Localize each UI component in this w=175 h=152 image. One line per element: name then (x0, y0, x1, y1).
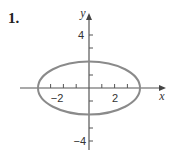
x-tick-label-neg2: −2 (51, 92, 64, 104)
y-tick-label-4: 4 (78, 29, 84, 41)
y-tick-label-neg4: −4 (73, 135, 86, 147)
x-axis-label: x (158, 89, 165, 103)
ellipse-graph: −2 2 4 −4 x y (0, 0, 175, 152)
y-axis-label: y (79, 6, 86, 20)
y-axis-arrow-icon (86, 13, 92, 20)
x-tick-label-2: 2 (112, 92, 118, 104)
